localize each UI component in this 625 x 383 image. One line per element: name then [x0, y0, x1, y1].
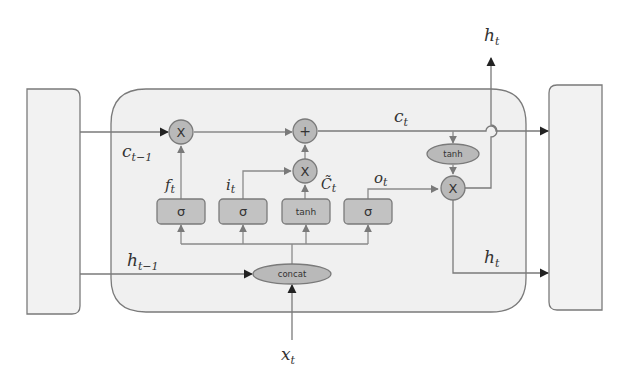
previous-cell-block: [27, 89, 80, 314]
svg-text:tanh: tanh: [296, 207, 316, 217]
input-multiply-node: X: [293, 159, 317, 183]
svg-text:X: X: [177, 125, 186, 140]
output-multiply-node: X: [441, 176, 465, 200]
label-h-t-top: ht: [484, 25, 500, 48]
svg-text:X: X: [301, 164, 310, 179]
svg-text:tanh: tanh: [443, 149, 462, 159]
cell-add-node: +: [293, 119, 317, 143]
svg-text:σ: σ: [239, 204, 247, 219]
input-gate: σ: [219, 199, 267, 224]
forget-gate: σ: [157, 199, 205, 224]
svg-text:σ: σ: [364, 204, 372, 219]
svg-text:+: +: [299, 123, 311, 139]
cell-tanh-node: tanh: [427, 144, 479, 164]
concat-node: concat: [253, 264, 331, 284]
svg-text:X: X: [449, 181, 458, 196]
forget-multiply-node: X: [169, 120, 193, 144]
next-cell-block: [549, 85, 602, 310]
candidate-gate: tanh: [282, 199, 330, 224]
svg-text:σ: σ: [177, 204, 185, 219]
label-x-t: xt: [281, 344, 296, 367]
svg-text:concat: concat: [278, 269, 307, 279]
output-gate: σ: [344, 199, 392, 224]
lstm-diagram: σ σ tanh σ X + X tanh X concat ct−1 ht−1…: [0, 0, 625, 383]
